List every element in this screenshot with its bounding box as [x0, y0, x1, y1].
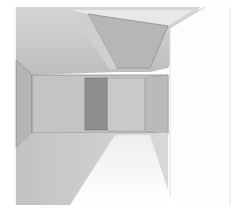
room-render-svg	[0, 0, 238, 211]
right-side-wall	[145, 75, 168, 135]
back-wall-right-recess	[107, 78, 145, 131]
door-panel	[170, 7, 230, 205]
doorway	[85, 78, 107, 130]
room-render	[0, 0, 238, 211]
left-wall	[16, 60, 32, 148]
